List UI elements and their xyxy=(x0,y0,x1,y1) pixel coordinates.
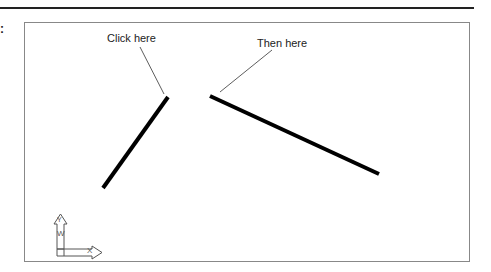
click-here-label: Click here xyxy=(107,32,156,44)
ucs-w-label: W xyxy=(57,229,65,238)
ucs-y-label: Y xyxy=(57,216,62,223)
second-leader xyxy=(220,50,272,92)
first-leader xyxy=(140,47,164,94)
then-here-label: Then here xyxy=(257,37,307,49)
drawing-canvas xyxy=(0,0,491,272)
first-line[interactable] xyxy=(103,97,168,188)
second-line[interactable] xyxy=(210,96,379,174)
ucs-x-label: X xyxy=(87,246,92,255)
